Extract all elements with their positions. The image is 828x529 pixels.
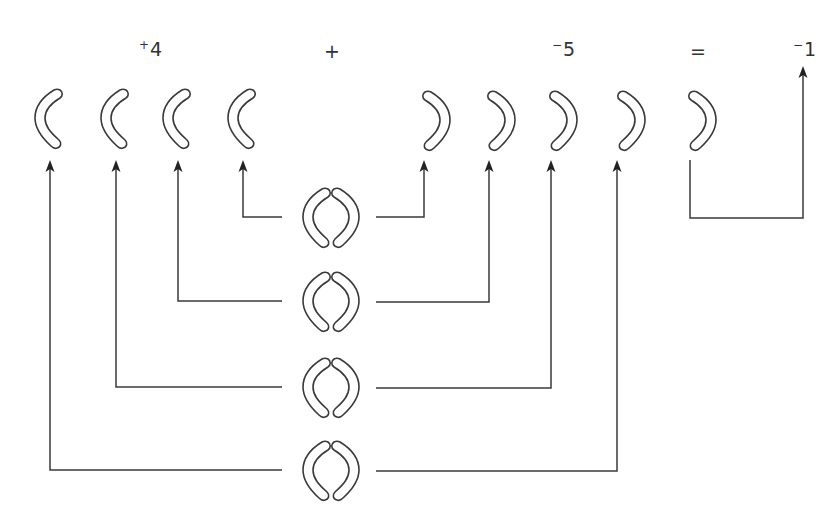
zero-pair-3 [303,358,359,417]
zero-pair-2 [303,272,359,331]
zero-pair-4 [303,441,359,500]
connector-pair4-to-positive1 [46,160,283,470]
connector-pair3-to-negative3 [376,160,556,388]
diagram-canvas [0,0,828,529]
positive-counter-4 [228,89,255,148]
connector-pair1-to-positive4 [239,160,283,217]
integer-addition-diagram: +4 + −5 = −1 [0,0,828,529]
negative-counter-2 [488,91,515,150]
negative-counter-4 [618,91,645,150]
positive-counter-2 [101,89,128,148]
connector-pair2-to-negative2 [376,160,494,302]
negative-counter-3 [550,91,577,150]
connector-pair3-to-positive2 [112,160,283,387]
connector-pair1-to-negative1 [376,160,429,217]
connector-leftover-to-result [690,66,808,218]
positive-counter-1 [35,89,62,148]
connector-pair4-to-negative4 [376,160,622,471]
zero-pair-1 [303,188,359,247]
negative-counter-leftover [689,91,716,150]
positive-counter-3 [163,89,190,148]
connector-pair2-to-positive3 [174,160,283,301]
negative-counter-1 [423,91,450,150]
